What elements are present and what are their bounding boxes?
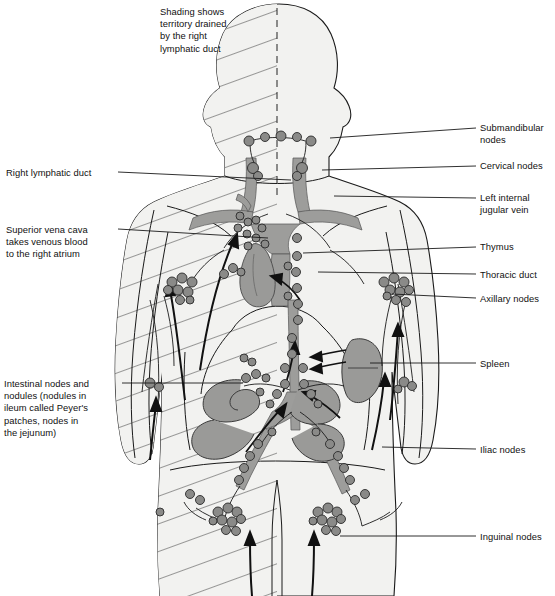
legend-note: Shading shows territory drained by the r…	[160, 6, 290, 55]
label-right-lymphatic-duct: Right lymphatic duct	[6, 167, 91, 179]
diagram-canvas: Shading shows territory drained by the r…	[0, 0, 555, 596]
label-spleen: Spleen	[480, 358, 510, 370]
leader-cervical-nodes	[322, 166, 476, 170]
label-left-internal-jugular-vein: Left internal jugular vein	[480, 192, 530, 216]
leader-submandibular-nodes	[330, 128, 476, 138]
label-cervical-nodes: Cervical nodes	[480, 160, 543, 172]
lymphatic-system-figure	[0, 0, 555, 596]
label-superior-vena-cava: Superior vena cava takes venous blood to…	[6, 224, 88, 261]
label-axillary-nodes: Axillary nodes	[480, 293, 539, 305]
label-inguinal-nodes: Inguinal nodes	[480, 531, 542, 543]
label-intestinal-nodes: Intestinal nodes and nodules (nodules in…	[4, 378, 89, 439]
label-submandibular-nodes: Submandibular nodes	[480, 122, 544, 146]
label-thoracic-duct: Thoracic duct	[480, 269, 537, 281]
label-thymus: Thymus	[480, 241, 514, 253]
right-lymphatic-duct-territory	[0, 0, 285, 596]
label-iliac-nodes: Iliac nodes	[480, 444, 525, 456]
